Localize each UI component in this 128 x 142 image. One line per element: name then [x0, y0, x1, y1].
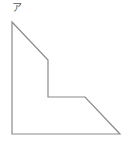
stepped-polygon-shape	[12, 22, 120, 134]
polygon-figure	[0, 0, 128, 142]
